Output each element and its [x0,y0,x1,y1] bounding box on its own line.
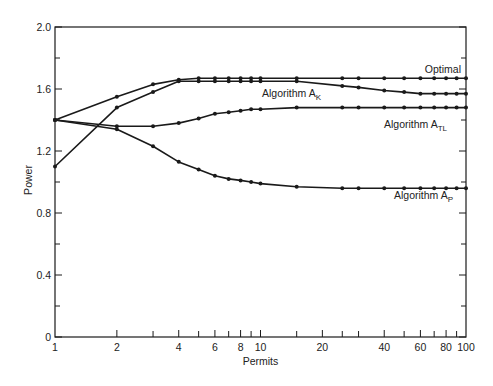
line-chart: 00.40.81.21.62.0124681020406080100Permit… [0,0,493,386]
data-point-marker [53,165,57,169]
data-point-marker [239,178,243,182]
data-point-marker [115,95,119,99]
data-point-marker [227,79,231,83]
x-tick-label: 60 [415,341,427,353]
data-point-marker [227,177,231,181]
y-tick-label: 0.4 [36,269,51,281]
data-point-marker [177,121,181,125]
data-point-marker [295,106,299,110]
data-point-marker [382,89,386,93]
x-tick-label: 6 [212,341,218,353]
data-point-marker [455,186,459,190]
data-point-marker [213,112,217,116]
data-point-marker [249,107,253,111]
series-group [53,76,468,190]
x-axis-title: Permits [243,355,279,367]
data-point-marker [115,127,119,131]
data-point-marker [357,106,361,110]
data-point-marker [177,160,181,164]
data-point-marker [444,92,448,96]
data-point-marker [239,109,243,113]
y-tick-label: 2.0 [36,21,51,33]
data-point-marker [213,79,217,83]
data-point-marker [197,116,201,120]
data-point-marker [197,168,201,172]
data-point-marker [177,79,181,83]
data-point-marker [239,79,243,83]
data-point-marker [418,92,422,96]
data-point-marker [382,76,386,80]
data-point-marker [295,185,299,189]
data-point-marker [340,84,344,88]
data-point-marker [432,106,436,110]
x-tick-label: 1 [52,341,58,353]
data-point-marker [402,106,406,110]
data-point-marker [432,76,436,80]
data-point-marker [357,85,361,89]
data-point-marker [259,182,263,186]
data-point-marker [455,106,459,110]
data-point-marker [464,186,468,190]
data-point-marker [418,76,422,80]
data-point-marker [249,79,253,83]
series-label: Algorithm AP [394,189,453,204]
series-label: Optimal [425,63,461,75]
data-point-marker [464,106,468,110]
x-tick-label: 8 [238,341,244,353]
data-point-marker [357,186,361,190]
data-point-marker [432,92,436,96]
data-point-marker [259,107,263,111]
data-point-marker [382,106,386,110]
data-point-marker [213,174,217,178]
series-labels: OptimalAlgorithm AKAlgorithm ATLAlgorith… [262,63,461,204]
x-tick-label: 80 [440,341,452,353]
data-point-marker [151,124,155,128]
x-tick-label: 40 [378,341,390,353]
data-point-marker [382,186,386,190]
data-point-marker [151,90,155,94]
data-point-marker [340,76,344,80]
data-point-marker [259,79,263,83]
data-point-marker [295,79,299,83]
y-tick-label: 0.8 [36,207,51,219]
data-point-marker [151,82,155,86]
data-point-marker [340,106,344,110]
data-point-marker [151,144,155,148]
data-point-marker [357,76,361,80]
y-tick-label: 1.6 [36,83,51,95]
series-line [55,78,466,120]
data-point-marker [418,106,422,110]
y-tick-label: 1.2 [36,145,51,157]
data-point-marker [464,76,468,80]
data-point-marker [115,106,119,110]
series-label: Algorithm AK [262,87,322,102]
x-tick-label: 4 [176,341,182,353]
x-tick-label: 2 [114,341,120,353]
data-point-marker [197,79,201,83]
data-point-marker [340,186,344,190]
data-point-marker [444,76,448,80]
x-tick-label: 10 [255,341,267,353]
data-point-marker [444,106,448,110]
data-point-marker [455,92,459,96]
data-point-marker [227,110,231,114]
x-tick-label: 100 [457,341,475,353]
data-point-marker [455,76,459,80]
data-point-marker [249,180,253,184]
x-tick-label: 20 [317,341,329,353]
y-axis-title: Power [22,165,34,195]
data-point-marker [402,76,406,80]
series-label: Algorithm ATL [384,118,448,133]
y-tick-label: 0 [45,331,51,343]
data-point-marker [464,92,468,96]
data-point-marker [53,118,57,122]
data-point-marker [402,90,406,94]
